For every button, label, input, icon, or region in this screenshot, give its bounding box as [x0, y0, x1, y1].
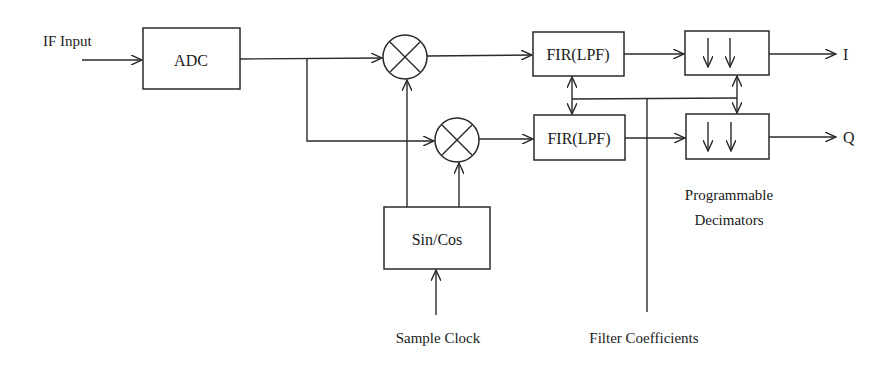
ddc-block-diagram: IF Input ADC Sin/Cos Sample Clock FIR(LP… [0, 0, 893, 373]
adc-to-mixer-i-arrow [240, 58, 382, 59]
fir-i-block: FIR(LPF) [533, 32, 624, 76]
decimators-caption-line1: Programmable [685, 187, 774, 203]
filter-coefficients-label: Filter Coefficients [589, 330, 698, 346]
fir-i-label: FIR(LPF) [546, 46, 609, 64]
mixer-i-multiplier-icon [383, 35, 427, 79]
adc-label: ADC [174, 52, 208, 69]
if-input-label: IF Input [43, 33, 93, 49]
output-i-label: I [843, 46, 848, 63]
sincos-block: Sin/Cos [384, 207, 490, 269]
decimator-q-block [686, 114, 769, 159]
sample-clock-label: Sample Clock [396, 330, 481, 346]
mixer-i-to-fir-arrow [427, 55, 532, 56]
fir-q-block: FIR(LPF) [534, 115, 625, 160]
decimators-caption-line2: Decimators [694, 212, 763, 228]
mixer-q-multiplier-icon [435, 118, 479, 162]
fir-q-label: FIR(LPF) [547, 130, 610, 148]
sincos-label: Sin/Cos [412, 231, 463, 248]
output-q-label: Q [843, 129, 855, 146]
decimator-i-block [685, 31, 769, 75]
adc-block: ADC [143, 28, 240, 89]
